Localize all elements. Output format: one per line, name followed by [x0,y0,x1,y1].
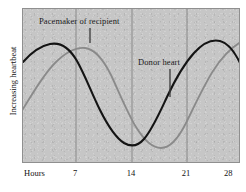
figure-heartbeat-chart: Pacemaker of recipient Donor heart Incre… [0,0,246,192]
annotation-pacemaker-of-recipient: Pacemaker of recipient [39,16,120,26]
plot-area [22,8,240,163]
y-axis-label: Increasing heartbeat [8,31,18,131]
x-tick-label-7: 7 [65,168,85,178]
annotation-donor-heart: Donor heart [138,57,180,67]
curves-svg [23,9,240,163]
x-tick-label-28: 28 [224,168,244,178]
x-axis-label-hours: Hours [24,168,64,178]
x-tick-label-21: 21 [176,168,196,178]
x-tick-label-14: 14 [121,168,141,178]
